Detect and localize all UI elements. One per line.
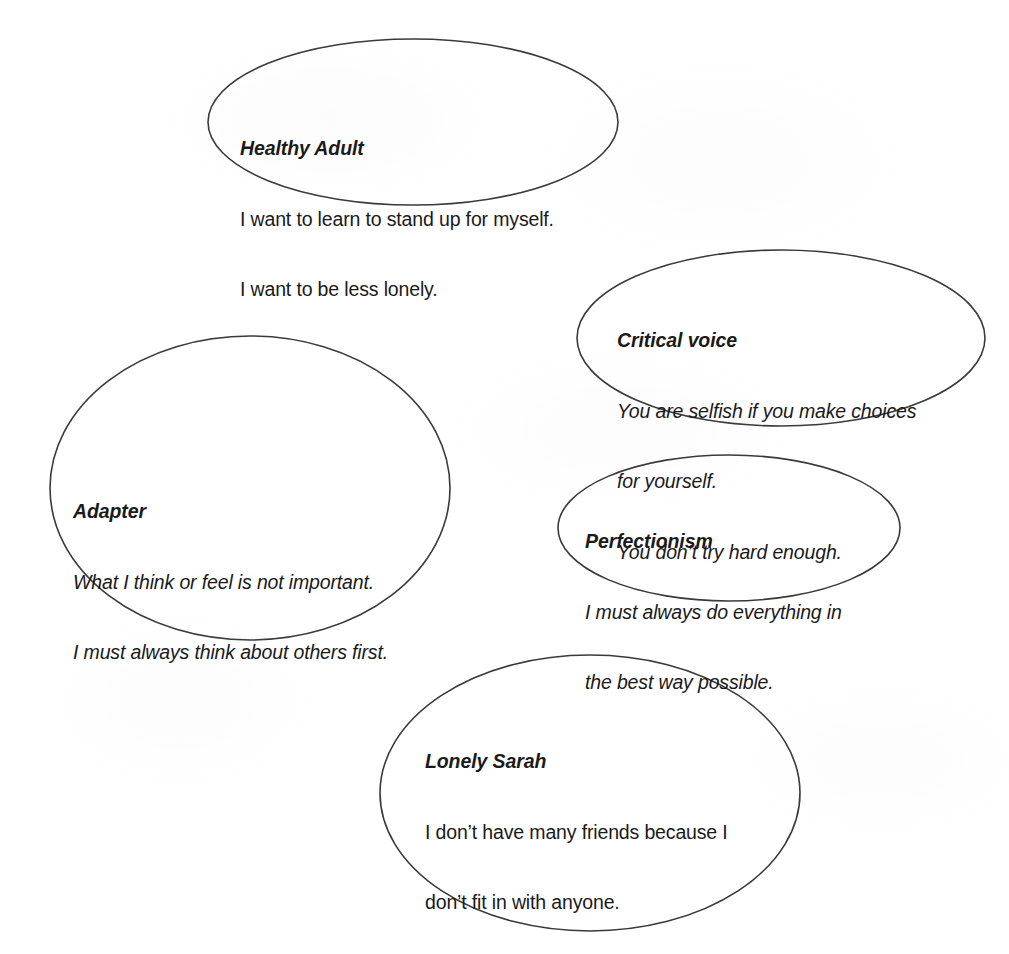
mode-body-line-1: I don’t have many friends because I bbox=[425, 821, 733, 845]
mode-title-lonely-sarah: Lonely Sarah bbox=[425, 750, 733, 774]
mode-body-line-1: I must always do everything in bbox=[585, 601, 842, 625]
mode-body-line-2: I must always think about others first. bbox=[73, 641, 388, 665]
mode-body-line-2: I want to be less lonely. bbox=[240, 278, 554, 302]
mode-body-line-1: You are selfish if you make choices bbox=[617, 400, 916, 424]
mode-label-healthy-adult: Healthy Adult I want to learn to stand u… bbox=[240, 90, 554, 349]
mode-label-lonely-sarah: Lonely Sarah I don’t have many friends b… bbox=[425, 703, 733, 954]
mode-title-healthy-adult: Healthy Adult bbox=[240, 137, 554, 161]
mode-title-critical-voice: Critical voice bbox=[617, 329, 916, 353]
mode-title-adapter: Adapter bbox=[73, 500, 388, 524]
mode-body-line-2: don’t fit in with anyone. bbox=[425, 891, 733, 915]
mode-title-perfectionism: Perfectionism bbox=[585, 530, 842, 554]
mode-label-adapter: Adapter What I think or feel is not impo… bbox=[73, 453, 388, 712]
mode-body-line-1: I want to learn to stand up for myself. bbox=[240, 208, 554, 232]
mode-map-diagram: Healthy Adult I want to learn to stand u… bbox=[0, 0, 1009, 954]
mode-body-line-2: the best way possible. bbox=[585, 671, 842, 695]
mode-body-line-1: What I think or feel is not important. bbox=[73, 571, 388, 595]
